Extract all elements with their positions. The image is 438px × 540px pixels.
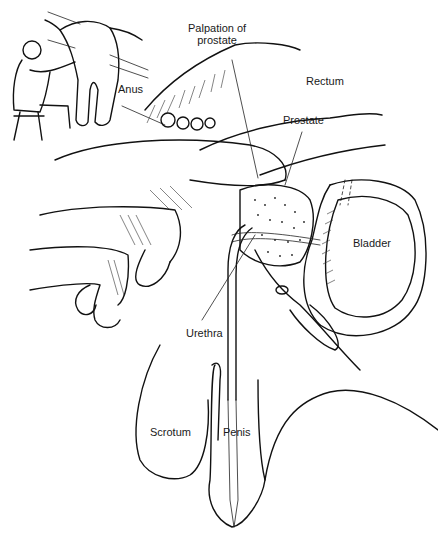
examining-hand <box>30 140 286 328</box>
label-palpation-line1: Palpation of <box>188 22 246 34</box>
label-bladder: Bladder <box>353 237 391 249</box>
anatomical-illustration: Palpation of prostate Anus Rectum Prosta… <box>0 0 438 540</box>
label-penis: Penis <box>223 426 251 438</box>
label-palpation-of-prostate: Palpation of prostate <box>188 22 246 46</box>
inset-scene <box>13 12 148 140</box>
scrotum <box>136 345 208 479</box>
bladder <box>304 180 426 336</box>
illustration-drawing <box>0 0 438 540</box>
urethra <box>228 225 360 400</box>
prostate-gland <box>240 185 313 266</box>
label-palpation-line2: prostate <box>188 34 246 46</box>
label-scrotum: Scrotum <box>150 426 191 438</box>
label-anus: Anus <box>118 83 143 95</box>
label-rectum: Rectum <box>306 75 344 87</box>
penis <box>209 363 438 527</box>
label-urethra: Urethra <box>186 327 223 339</box>
label-prostate: Prostate <box>283 114 324 126</box>
rectum-folds <box>145 43 385 175</box>
